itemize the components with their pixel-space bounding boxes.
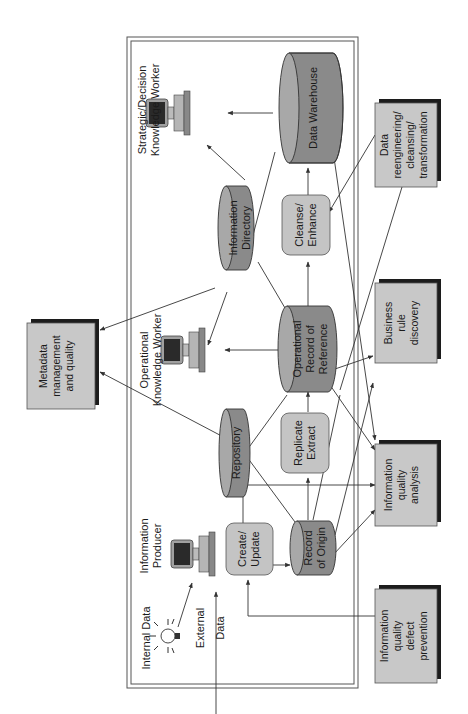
svg-text:Metadata: Metadata — [37, 344, 49, 388]
svg-text:cleansing/: cleansing/ — [404, 121, 416, 168]
label-internal-data: Internal Data — [140, 606, 152, 670]
svg-text:Data: Data — [214, 616, 226, 640]
svg-text:Operational: Operational — [291, 321, 303, 378]
svg-text:prevention: prevention — [417, 611, 429, 660]
svg-text:Data: Data — [378, 134, 390, 156]
process-replicate-extract: Replicate Extract — [281, 413, 329, 473]
svg-text:Information: Information — [138, 518, 150, 573]
box-metadata-management: Metadata management and quality — [27, 319, 99, 409]
svg-text:Extract: Extract — [305, 426, 317, 460]
svg-text:Reference: Reference — [317, 324, 329, 375]
svg-text:reengineering/: reengineering/ — [391, 111, 403, 178]
svg-text:transformation: transformation — [417, 111, 429, 178]
svg-text:quality: quality — [391, 620, 403, 651]
svg-text:Data Warehouse: Data Warehouse — [307, 67, 319, 149]
svg-text:Strategic/Decision: Strategic/Decision — [136, 66, 148, 155]
svg-text:management: management — [50, 335, 62, 396]
svg-text:Producer: Producer — [151, 523, 163, 568]
computer-icon-operational — [161, 328, 205, 372]
svg-text:quality: quality — [395, 469, 407, 500]
box-business-rule-discovery: Business rule discovery — [375, 279, 441, 363]
label-operational-worker: Operational Knowledge Worker — [138, 313, 163, 406]
svg-text:Record of: Record of — [304, 324, 316, 373]
computer-icon-producer — [171, 532, 215, 576]
svg-text:analysis: analysis — [408, 466, 420, 504]
svg-text:Record: Record — [302, 530, 314, 565]
svg-text:Knowledge Worker: Knowledge Worker — [151, 313, 163, 406]
information-environment-diagram: Metadata management and quality Data ree… — [0, 0, 468, 714]
svg-text:Replicate: Replicate — [292, 420, 304, 466]
svg-text:Information: Information — [382, 459, 394, 512]
svg-text:Knowledge Worker: Knowledge Worker — [149, 63, 161, 156]
svg-text:Enhance: Enhance — [306, 203, 318, 246]
label-external-data: External Data — [194, 608, 226, 648]
svg-text:Create/: Create/ — [236, 530, 248, 567]
svg-text:Internal Data: Internal Data — [140, 606, 152, 670]
svg-text:Business: Business — [382, 302, 394, 345]
svg-text:External: External — [194, 608, 206, 648]
database-data-warehouse: Data Warehouse — [279, 53, 343, 163]
database-record-of-origin: Record of Origin — [290, 521, 336, 575]
svg-text:defect: defect — [404, 622, 416, 651]
label-information-producer: Information Producer — [138, 518, 163, 573]
box-information-quality-analysis: Information quality analysis — [375, 440, 441, 526]
svg-text:Cleanse/: Cleanse/ — [293, 202, 305, 246]
svg-text:discovery: discovery — [408, 300, 420, 345]
svg-text:Information: Information — [378, 610, 390, 663]
svg-text:Repository: Repository — [230, 426, 242, 479]
database-repository: Repository — [219, 409, 250, 497]
process-create-update: Create/ Update — [226, 523, 273, 575]
svg-text:rule: rule — [395, 314, 407, 332]
svg-text:Operational: Operational — [138, 332, 150, 389]
box-information-quality-defect-prevention: Information quality defect prevention — [375, 585, 441, 683]
svg-text:Directory: Directory — [240, 206, 252, 251]
database-operational-record-of-reference: Operational Record of Reference — [278, 306, 337, 392]
svg-text:Information: Information — [227, 200, 239, 255]
svg-text:and quality: and quality — [63, 340, 75, 392]
label-strategic-worker: Strategic/Decision Knowledge Worker — [136, 63, 161, 156]
lightbulb-icon — [150, 619, 180, 653]
svg-text:of Origin: of Origin — [315, 527, 327, 569]
database-information-directory: Information Directory — [218, 186, 254, 270]
process-cleanse-enhance: Cleanse/ Enhance — [282, 195, 330, 255]
svg-text:Update: Update — [249, 531, 261, 566]
box-data-reengineering: Data reengineering/ cleansing/ transform… — [375, 99, 441, 187]
